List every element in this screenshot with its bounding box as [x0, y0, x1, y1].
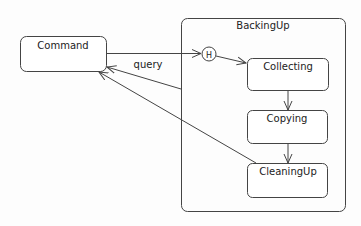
- history-label: H: [206, 51, 212, 60]
- state-copying-label: Copying: [267, 113, 308, 124]
- query-label: query: [134, 59, 163, 70]
- state-command-label: Command: [37, 40, 88, 51]
- state-collecting-label: Collecting: [263, 61, 313, 72]
- state-command[interactable]: Command: [21, 37, 107, 72]
- state-diagram: Command BackingUp H Collecting Copying C…: [0, 0, 361, 226]
- transition-cleaningup-to-command[interactable]: [99, 72, 256, 163]
- state-collecting[interactable]: Collecting: [248, 59, 329, 91]
- state-cleaningup-label: CleaningUp: [259, 166, 317, 177]
- state-copying[interactable]: Copying: [248, 111, 328, 144]
- state-backingup-label: BackingUp: [236, 20, 289, 31]
- transition-history-to-collecting[interactable]: [216, 56, 246, 63]
- state-cleaningup[interactable]: CleaningUp: [248, 164, 328, 198]
- history-pseudostate[interactable]: H: [202, 47, 216, 61]
- transition-backingup-query-to-command[interactable]: query: [107, 59, 181, 89]
